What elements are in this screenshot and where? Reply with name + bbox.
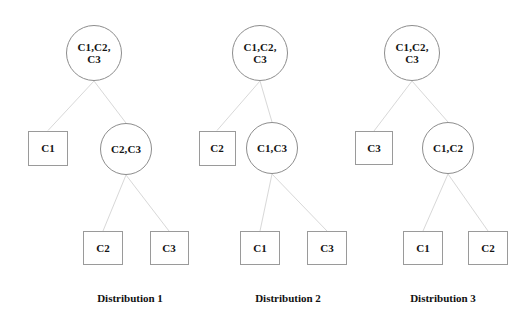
tree-node-d1-leaf2: C3 — [150, 231, 189, 265]
tree-node-d2-left: C2 — [199, 131, 236, 166]
tree-node-d2-root: C1,C2, C3 — [232, 25, 288, 81]
tree-node-d1-root: C1,C2, C3 — [66, 25, 122, 81]
tree-node-d3-leaf2: C2 — [468, 231, 508, 265]
tree-node-label: C1,C3 — [257, 142, 287, 154]
tree-node-label: C3 — [367, 142, 381, 154]
tree-edge — [103, 175, 126, 231]
tree-edge — [260, 174, 272, 231]
tree-node-label: C1 — [41, 142, 55, 154]
tree-node-d2-leaf2: C3 — [307, 231, 347, 265]
distribution-caption-1: Distribution 1 — [97, 292, 163, 304]
tree-node-d3-root: C1,C2, C3 — [384, 25, 440, 81]
tree-node-label: C1,C2, C3 — [78, 41, 111, 66]
tree-node-label: C1,C2 — [433, 142, 463, 154]
tree-edge — [412, 81, 448, 122]
tree-node-d2-right: C1,C3 — [246, 122, 298, 174]
tree-edge — [260, 81, 272, 122]
tree-node-label: C2 — [96, 242, 110, 254]
tree-edge — [217, 81, 260, 131]
tree-node-label: C3 — [162, 242, 176, 254]
tree-edge — [48, 81, 94, 131]
tree-node-d1-right: C2,C3 — [100, 123, 152, 175]
tree-node-label: C3 — [320, 242, 334, 254]
tree-edge — [423, 174, 448, 231]
tree-node-d2-leaf1: C1 — [240, 231, 280, 265]
tree-node-label: C1,C2, C3 — [396, 41, 429, 66]
tree-node-d1-left: C1 — [28, 131, 68, 166]
tree-edge — [448, 174, 488, 231]
tree-node-d3-right: C1,C2 — [422, 122, 474, 174]
tree-node-label: C2,C3 — [111, 143, 141, 155]
tree-node-label: C2 — [481, 242, 495, 254]
distribution-caption-2: Distribution 2 — [255, 292, 321, 304]
tree-edge — [94, 81, 126, 123]
tree-node-label: C1,C2, C3 — [244, 41, 277, 66]
tree-edge — [374, 81, 412, 131]
distribution-caption-3: Distribution 3 — [410, 292, 476, 304]
tree-node-label: C1 — [253, 242, 267, 254]
tree-node-d3-leaf1: C1 — [403, 231, 443, 265]
tree-diagram-canvas: C1,C2, C3C1C2,C3C2C3C1,C2, C3C2C1,C3C1C3… — [0, 0, 528, 320]
tree-node-label: C1 — [416, 242, 430, 254]
tree-node-d3-left: C3 — [355, 131, 393, 165]
tree-edge — [272, 174, 327, 231]
tree-node-label: C2 — [210, 142, 224, 154]
tree-edge — [126, 175, 169, 231]
tree-node-d1-leaf1: C2 — [83, 231, 123, 265]
